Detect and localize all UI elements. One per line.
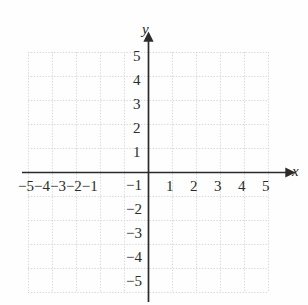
x-axis-label: x (292, 164, 299, 179)
y-tick-label-neg-4: −4 (126, 250, 142, 265)
y-axis-label: y (142, 22, 149, 37)
y-tick-label-neg-2: −2 (126, 202, 142, 217)
y-tick-label-neg-3: −3 (126, 226, 142, 241)
graph-canvas (0, 0, 308, 305)
x-tick-label-4: 4 (238, 179, 246, 194)
x-tick-label-3: 3 (214, 179, 222, 194)
y-tick-label-3: 3 (133, 97, 141, 112)
x-tick-label-2: 2 (190, 179, 198, 194)
x-axis-negative-tick-labels: −5−4−3−2−1 (18, 179, 98, 194)
coordinate-plane-figure: x y −5−4−3−2−1 1 2 3 4 5 5 4 3 2 1 −1 −2… (0, 0, 308, 305)
y-tick-label-neg-5: −5 (126, 274, 142, 289)
y-tick-label-neg-1: −1 (126, 178, 142, 193)
y-tick-label-1: 1 (133, 145, 141, 160)
y-tick-label-2: 2 (133, 121, 141, 136)
x-tick-label-1: 1 (166, 179, 174, 194)
y-tick-label-5: 5 (133, 49, 141, 64)
y-tick-label-4: 4 (133, 73, 141, 88)
x-tick-label-5: 5 (262, 179, 270, 194)
